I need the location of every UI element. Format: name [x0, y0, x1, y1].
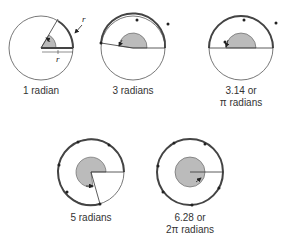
radian-diagrams: r r	[0, 0, 298, 238]
label-2pi-radians-line2: 2π radians	[150, 224, 230, 235]
two-pi-radians-diagram	[157, 139, 224, 207]
five-radians-diagram	[58, 139, 125, 206]
label-2pi-radians-line1: 6.28 or	[150, 212, 230, 223]
label-1-radian: 1 radian	[1, 85, 81, 96]
radius-r-label: r	[56, 54, 60, 64]
one-radian-diagram: r r	[9, 14, 86, 80]
three-radians-diagram	[100, 13, 170, 80]
label-pi-radians-line2: π radians	[201, 97, 281, 108]
label-pi-radians-line1: 3.14 or	[201, 85, 281, 96]
label-5-radians: 5 radians	[51, 212, 131, 223]
arc-r-label: r	[82, 14, 86, 24]
pi-radians-diagram	[209, 16, 278, 80]
label-3-radians: 3 radians	[93, 85, 173, 96]
